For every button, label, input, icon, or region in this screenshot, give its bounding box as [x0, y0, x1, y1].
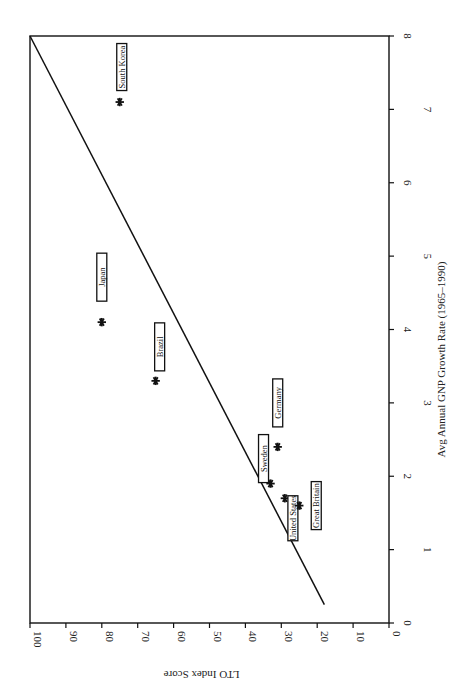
- point-label: Sweden: [259, 444, 269, 472]
- score-tick-label: 70: [140, 631, 152, 643]
- point-label: Japan: [97, 267, 107, 287]
- score-tick-label: 20: [319, 631, 331, 643]
- point-label: South Korea: [117, 45, 127, 88]
- trend-line: [30, 36, 324, 605]
- data-point: Germany: [273, 379, 283, 451]
- score-tick-label: 40: [247, 631, 259, 643]
- gnp-tick-label: 0: [402, 620, 414, 626]
- score-tick-label: 30: [283, 631, 295, 643]
- gnp-tick-label: 5: [422, 253, 434, 259]
- point-label: Germany: [273, 386, 283, 418]
- data-point: Japan: [97, 253, 107, 326]
- data-point: United States: [281, 494, 298, 541]
- gnp-growth-axis: 012345678: [389, 33, 434, 626]
- gnp-tick-label: 1: [422, 547, 434, 553]
- point-label: United States: [288, 495, 298, 541]
- gnp-tick-label: 4: [402, 327, 414, 333]
- data-point: Great Britain: [295, 482, 321, 530]
- point-label: Brazil: [155, 336, 165, 357]
- gnp-tick-label: 8: [402, 33, 414, 39]
- score-tick-label: 100: [32, 631, 44, 648]
- score-tick-label: 60: [176, 631, 188, 643]
- scatter-chart: South KoreaJapanBrazilGermanySwedenUnite…: [0, 0, 468, 697]
- data-point: South Korea: [116, 44, 127, 107]
- point-label: Great Britain: [311, 483, 321, 528]
- data-point: Brazil: [151, 323, 164, 385]
- score-tick-label: 10: [355, 631, 367, 643]
- asterisk-marker-icon: [98, 318, 106, 326]
- asterisk-marker-icon: [274, 443, 282, 451]
- gnp-tick-label: 3: [422, 400, 434, 406]
- asterisk-marker-icon: [116, 98, 124, 106]
- score-tick-label: 50: [212, 631, 224, 643]
- gnp-tick-label: 7: [422, 107, 434, 113]
- data-point: Sweden: [259, 435, 275, 488]
- data-points: South KoreaJapanBrazilGermanySwedenUnite…: [97, 44, 321, 542]
- plot-frame: [30, 36, 389, 623]
- y-axis-title: LTO Index Score: [164, 669, 240, 681]
- gnp-tick-label: 6: [402, 180, 414, 186]
- asterisk-marker-icon: [151, 377, 159, 385]
- gnp-tick-label: 2: [402, 474, 414, 480]
- x-axis-title: Avg Annual GNP Growth Rate (1965–1990): [435, 261, 448, 457]
- lto-score-axis: 0102030405060708090100: [30, 623, 403, 648]
- score-tick-label: 80: [104, 631, 116, 643]
- score-tick-label: 90: [68, 631, 80, 643]
- score-tick-label: 0: [391, 631, 403, 637]
